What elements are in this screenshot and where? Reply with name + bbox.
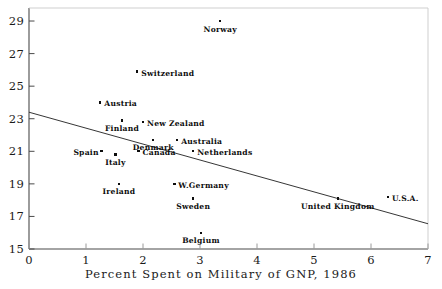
y-tick-label: 17 [2, 209, 24, 223]
data-point-label: Netherlands [197, 148, 252, 157]
data-point-label: New Zealand [147, 119, 205, 128]
data-point [219, 20, 221, 22]
x-tick-label: 3 [190, 253, 210, 267]
y-tick-label: 19 [2, 177, 24, 191]
data-point-label: Australia [181, 137, 222, 146]
y-tick-label: 25 [2, 79, 24, 93]
data-point-label: Austria [104, 99, 137, 108]
x-tick-label: 6 [361, 253, 381, 267]
y-tick-label: 21 [2, 144, 24, 158]
data-point-label: Belgium [182, 236, 220, 245]
x-tick-label: 1 [76, 253, 96, 267]
data-point-label: Canada [142, 148, 175, 157]
data-point [192, 150, 194, 152]
data-point [176, 139, 178, 141]
data-point-label: Finland [105, 124, 139, 133]
x-tick-label: 7 [418, 253, 438, 267]
data-point [142, 121, 144, 123]
data-point-label: U.S.A. [392, 194, 418, 203]
x-tick-label: 4 [247, 253, 267, 267]
y-tick-label: 23 [2, 112, 24, 126]
data-point [121, 119, 123, 121]
data-point [137, 150, 139, 152]
data-point-label: United Kingdom [301, 202, 375, 211]
x-axis-title: Percent Spent on Military of GNP, 1986 [0, 267, 442, 281]
data-point [200, 232, 202, 234]
y-tick-label: 29 [2, 14, 24, 28]
data-point [99, 101, 101, 103]
data-point-label: Ireland [103, 187, 136, 196]
x-tick-label: 2 [133, 253, 153, 267]
data-point [173, 183, 175, 185]
data-point-label: Italy [105, 158, 126, 167]
scatter-chart: 1517192123252729 01234567 NorwaySwitzerl… [0, 0, 442, 289]
data-point-label: Norway [203, 25, 236, 34]
x-tick-label: 0 [19, 253, 39, 267]
data-point [100, 150, 102, 152]
tick-marks [29, 21, 428, 249]
data-point [387, 196, 389, 198]
data-point [192, 197, 194, 199]
data-point-label: Switzerland [141, 69, 194, 78]
data-point [114, 153, 116, 155]
data-point [337, 197, 339, 199]
data-point [136, 70, 138, 72]
data-point-label: Spain [73, 148, 98, 157]
x-tick-label: 5 [304, 253, 324, 267]
data-point [118, 183, 120, 185]
data-point-label: Sweden [176, 202, 210, 211]
y-tick-label: 27 [2, 47, 24, 61]
data-point [152, 139, 154, 141]
data-point-label: W.Germany [178, 181, 228, 190]
